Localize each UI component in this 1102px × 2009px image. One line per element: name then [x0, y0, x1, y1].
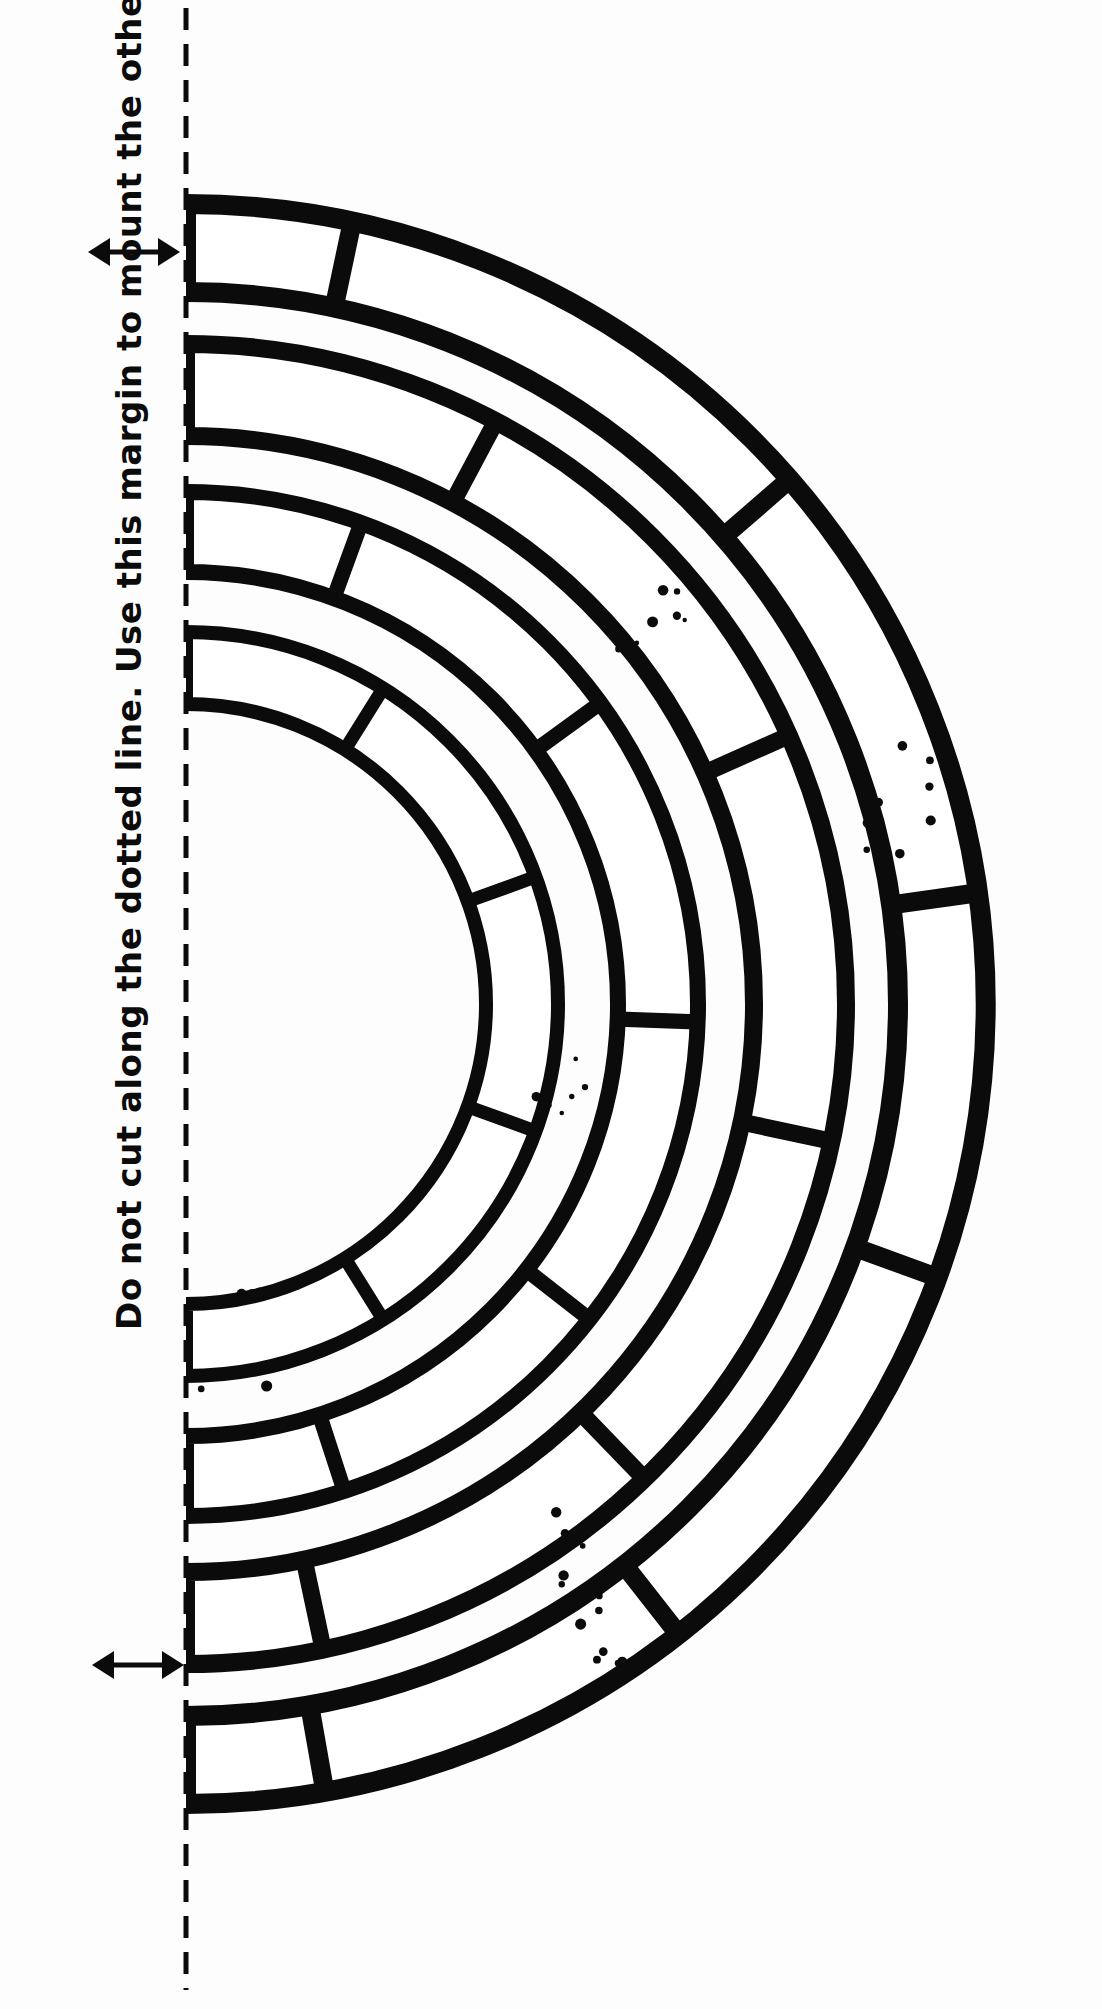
- stipple-dot: [559, 1581, 565, 1587]
- ring-outer-joint-2: [893, 893, 976, 905]
- stipple-dot: [198, 1386, 205, 1393]
- stipple-dot: [926, 815, 936, 825]
- stipple-dot: [237, 1289, 247, 1299]
- stipple-dot: [560, 1111, 565, 1116]
- pattern-sheet-page: Do not cut along the dotted line. Use th…: [0, 0, 1102, 2009]
- rings-group: [186, 204, 986, 1804]
- stipple-dot: [261, 1380, 272, 1391]
- stipple-dot: [615, 645, 622, 652]
- stipple-dot: [561, 1529, 570, 1538]
- stipple-dot: [593, 1656, 601, 1664]
- stipple-dot: [582, 1084, 588, 1090]
- stipple-dot: [596, 1593, 603, 1600]
- stipple-dot: [874, 798, 883, 807]
- stipple-dot: [569, 1094, 574, 1099]
- stipple-dot: [558, 1570, 568, 1580]
- ring-third-joint-2: [619, 1019, 695, 1022]
- stipple-dot: [683, 618, 687, 622]
- stipple-dot: [634, 641, 639, 646]
- ring-inner: [186, 632, 558, 1376]
- stipple-dot: [863, 847, 870, 854]
- stipple-dot: [532, 1092, 542, 1102]
- stipple-dot: [573, 1057, 578, 1062]
- ring-inner-band: [186, 632, 558, 1376]
- stipple-dot: [547, 1103, 552, 1108]
- stipple-dot: [247, 1289, 258, 1300]
- stipple-dot: [553, 1038, 560, 1045]
- stipple-dot: [895, 849, 905, 859]
- stipple-dot: [898, 741, 908, 751]
- stipple-dot: [674, 588, 680, 594]
- stipple-dot: [925, 782, 933, 790]
- stipple-dot: [658, 585, 669, 596]
- stipple-dot: [580, 1543, 586, 1549]
- stipple-dot: [596, 1578, 606, 1588]
- stipple-dot: [599, 1647, 608, 1656]
- stipple-dot: [562, 1548, 567, 1553]
- arch-ring-diagram: [0, 0, 1102, 2009]
- stipple-dot: [647, 616, 658, 627]
- stipple-dot: [863, 818, 873, 828]
- stipple-dot: [551, 1507, 561, 1517]
- stipple-dot: [615, 1660, 622, 1667]
- stipple-dot: [595, 1607, 603, 1615]
- stipple-dot: [575, 1619, 586, 1630]
- stipple-dot: [673, 612, 681, 620]
- stipple-dot: [926, 757, 934, 765]
